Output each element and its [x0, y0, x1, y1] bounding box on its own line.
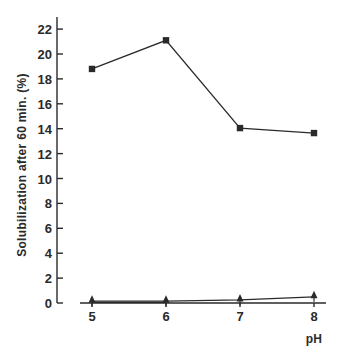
y-tick-label: 22: [38, 22, 52, 37]
square-marker: [89, 66, 95, 72]
y-axis-title: Solubilization after 60 min. (%): [15, 73, 29, 257]
x-tick-label: 8: [310, 309, 317, 324]
y-axis: 0246810121416182022: [38, 17, 63, 311]
square-marker: [311, 130, 317, 136]
y-tick-label: 14: [38, 122, 53, 137]
y-tick-label: 18: [38, 72, 52, 87]
y-tick-label: 8: [45, 196, 52, 211]
series-triangles: [89, 291, 318, 306]
x-tick-label: 5: [88, 309, 95, 324]
x-axis: 5678: [80, 303, 326, 324]
y-tick-label: 20: [38, 47, 52, 62]
series-line: [92, 297, 314, 301]
y-tick-label: 10: [38, 172, 52, 187]
y-tick-label: 4: [45, 246, 53, 261]
square-marker: [163, 37, 169, 43]
x-tick-label: 7: [236, 309, 243, 324]
x-axis-title: pH: [306, 332, 323, 346]
y-tick-label: 12: [38, 147, 52, 162]
x-tick-label: 6: [162, 309, 169, 324]
series-group: [89, 37, 318, 306]
y-tick-label: 16: [38, 97, 52, 112]
y-tick-label: 0: [45, 296, 52, 311]
chart: 0246810121416182022 5678 Solubilization …: [0, 0, 342, 351]
series-squares: [89, 37, 317, 136]
square-marker: [237, 125, 243, 131]
y-tick-label: 2: [45, 271, 52, 286]
y-tick-label: 6: [45, 221, 52, 236]
series-line: [92, 40, 314, 133]
